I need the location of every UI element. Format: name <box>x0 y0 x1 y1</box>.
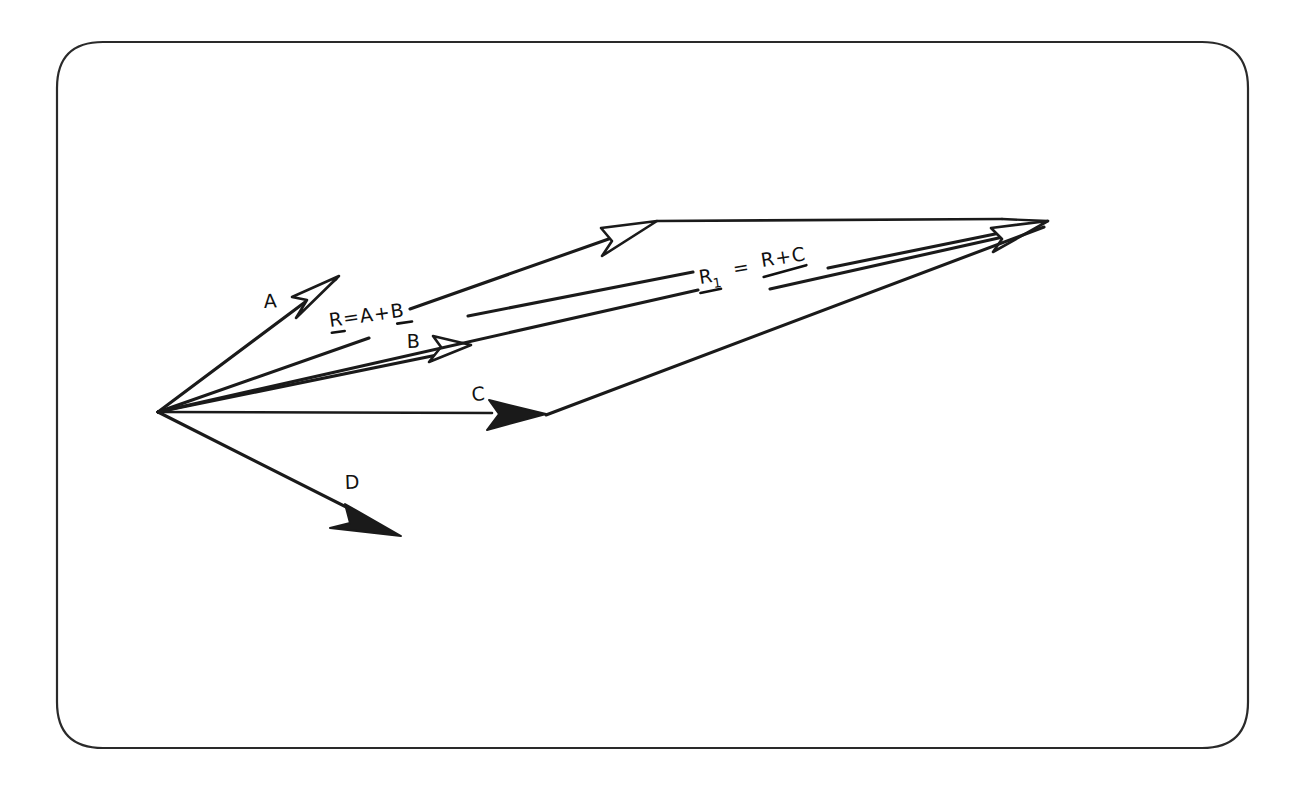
figure-root: A B C D R=A+ <box>0 0 1302 785</box>
page-background <box>0 0 1302 785</box>
vector-c-label: C <box>471 382 486 405</box>
vector-r1-label-equals: = <box>731 255 751 279</box>
vector-d-label: D <box>344 470 360 493</box>
vector-diagram: A B C D R=A+ <box>0 0 1302 785</box>
vector-a-label: A <box>263 289 278 312</box>
vector-b-label: B <box>406 330 420 352</box>
vector-r-underbar-r <box>332 331 345 333</box>
